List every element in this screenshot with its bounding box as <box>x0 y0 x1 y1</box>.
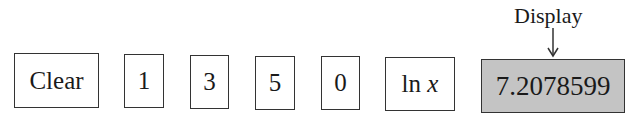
digit-1-label: 1 <box>138 67 151 95</box>
digit-1-key[interactable]: 1 <box>124 54 164 108</box>
digit-5-label: 5 <box>269 69 282 97</box>
digit-5-key[interactable]: 5 <box>255 56 295 110</box>
x-variable: x <box>427 70 438 97</box>
digit-0-label: 0 <box>334 69 347 97</box>
display-value: 7.2078599 <box>496 71 611 102</box>
digit-3-label: 3 <box>203 68 216 96</box>
ln-x-key[interactable]: ln x <box>385 57 455 111</box>
ln-text: ln <box>402 70 421 97</box>
ln-x-label: ln x <box>402 70 439 98</box>
display-label: Display <box>514 3 582 29</box>
clear-key-label: Clear <box>29 67 83 95</box>
arrow-down-icon <box>546 28 560 58</box>
calculator-display: 7.2078599 <box>481 59 625 113</box>
clear-key[interactable]: Clear <box>14 53 99 108</box>
digit-3-key[interactable]: 3 <box>190 55 229 109</box>
digit-0-key[interactable]: 0 <box>321 56 360 110</box>
